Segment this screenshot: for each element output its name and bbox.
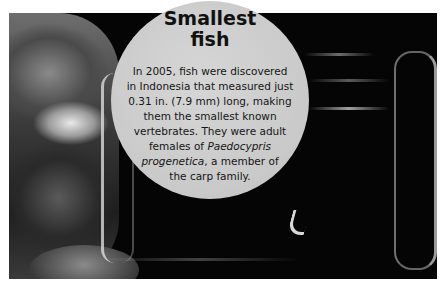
jar-rim-right — [394, 51, 437, 270]
body-line: them the smallest known — [121, 109, 299, 124]
body-text: females of — [149, 140, 207, 152]
jar-reflection — [309, 107, 389, 110]
jar-reflection — [309, 79, 389, 82]
title-line-2: fish — [111, 29, 309, 50]
body-line: the carp family. — [121, 169, 299, 184]
species-epithet: progenetica — [141, 155, 204, 167]
body-line: females of Paedocypris — [121, 139, 299, 154]
jar-reflection — [304, 53, 374, 56]
species-genus: Paedocypris — [207, 140, 271, 152]
body-line: In 2005, fish were discovered — [121, 64, 299, 79]
callout-body: In 2005, fish were discovered in Indones… — [121, 64, 299, 184]
body-line: vertebrates. They were adult — [121, 124, 299, 139]
jar-reflection — [99, 258, 299, 261]
body-line: progenetica, a member of — [121, 154, 299, 169]
title-line-1: Smallest — [111, 8, 309, 29]
body-text: , a member of — [204, 155, 278, 167]
callout-title: Smallest fish — [111, 8, 309, 50]
body-line: in Indonesia that measured just — [121, 79, 299, 94]
body-line: 0.31 in. (7.9 mm) long, making — [121, 94, 299, 109]
fish — [287, 210, 311, 235]
